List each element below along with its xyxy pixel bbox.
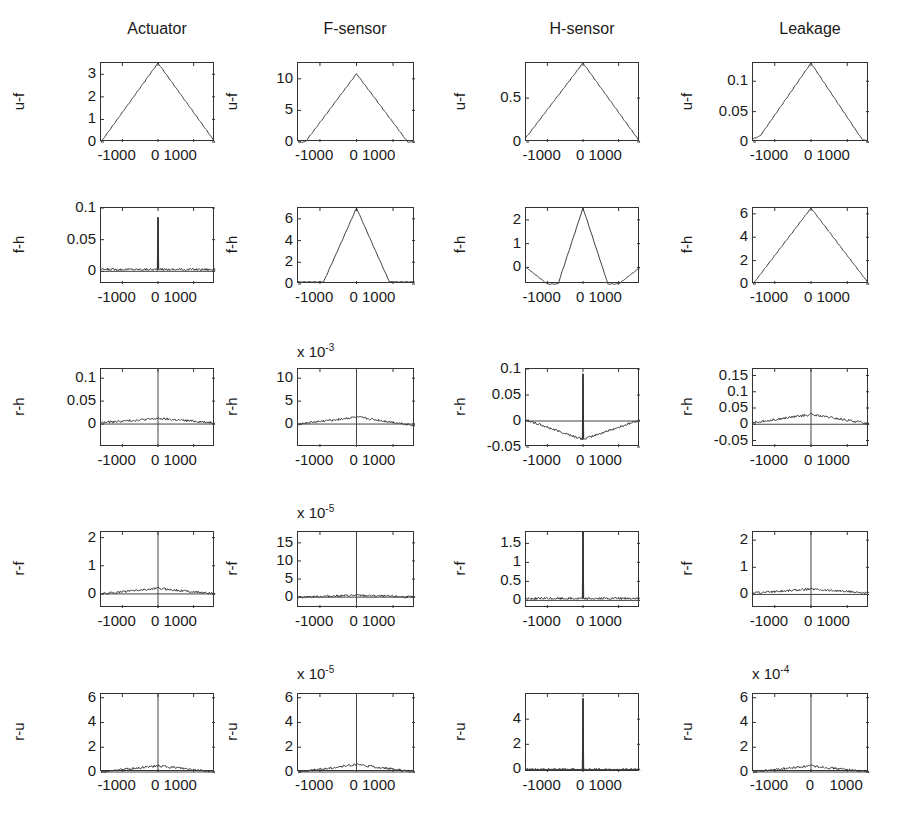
plot-area (752, 62, 868, 141)
multiplier-exponent: -4 (780, 664, 789, 675)
y-tick-label: 0 (233, 133, 293, 148)
plot-area (297, 693, 414, 771)
plot-area (752, 693, 868, 771)
y-tick-label: 0.5 (461, 89, 521, 104)
x-tick-label: -1000 (750, 289, 788, 305)
x-tick-label: 0 1000 (151, 147, 197, 163)
y-tick-label: 15 (233, 534, 293, 549)
y-tick-label: 2 (36, 529, 96, 544)
y-tick-label: 6 (688, 689, 748, 704)
x-tick-label: -1000 (97, 289, 135, 305)
y-tick-label: 6 (233, 210, 293, 225)
plot-area (525, 531, 639, 607)
plot-line (101, 63, 215, 142)
y-axis-label: u-f (10, 81, 27, 121)
multiplier-text: x 10 (297, 343, 325, 360)
x-tick-label: 0 1000 (350, 147, 396, 163)
y-tick-label: 0 (233, 415, 293, 430)
x-tick-label: -1000 (295, 777, 333, 793)
y-tick-label: 0 (36, 585, 96, 600)
y-tick-label: 2 (688, 531, 748, 546)
y-tick-label: 0 (688, 763, 748, 778)
x-tick-label: -1000 (295, 452, 333, 468)
y-tick-label: 0 (461, 133, 521, 148)
y-tick-label: 4 (36, 713, 96, 728)
y-tick-label: 0.1 (36, 369, 96, 384)
x-tick-label: 0 1000 (576, 147, 622, 163)
y-tick-label: 3 (36, 65, 96, 80)
y-tick-label: 0 (233, 763, 293, 778)
plot-area (752, 531, 868, 607)
plot-line (298, 694, 415, 772)
x-tick-label: 0 1000 (576, 452, 622, 468)
x-tick-label: -1000 (97, 147, 135, 163)
plot-line (101, 694, 215, 772)
plot-line (753, 532, 869, 608)
y-tick-label: 2 (461, 735, 521, 750)
x-tick-label: -1000 (97, 452, 135, 468)
x-tick-label: 0 1000 (151, 452, 197, 468)
x-tick-label: 0 1000 (350, 289, 396, 305)
x-tick-label: 0 1000 (804, 147, 850, 163)
x-tick-label: 0 1000 (350, 452, 396, 468)
y-tick-label: 2 (688, 252, 748, 267)
x-tick-label: 0 1000 (576, 613, 622, 629)
plot-area (525, 62, 639, 141)
y-tick-label: 0 (461, 591, 521, 606)
x-tick-label: 0 1000 (576, 289, 622, 305)
y-tick-label: 5 (233, 570, 293, 585)
x-tick-label: 0 (806, 777, 814, 793)
y-axis-label: r-f (10, 549, 27, 589)
x-tick-label: -1000 (522, 452, 560, 468)
plot-area (100, 531, 214, 607)
y-tick-label: 0.05 (461, 386, 521, 401)
y-tick-label: 0 (688, 415, 748, 430)
plot-line (526, 208, 640, 284)
plot-line (101, 369, 215, 447)
x-tick-label: 0 1000 (804, 452, 850, 468)
y-tick-label: 6 (233, 689, 293, 704)
y-tick-label: 1.5 (461, 534, 521, 549)
plot-line (101, 532, 215, 608)
x-tick-label: 0 1000 (576, 777, 622, 793)
x-tick-label: -1000 (295, 289, 333, 305)
x-tick-label: 0 1000 (350, 613, 396, 629)
x-tick-label: -1000 (750, 613, 788, 629)
y-tick-label: 2 (36, 88, 96, 103)
y-tick-label: 10 (233, 70, 293, 85)
plot-area (297, 207, 414, 283)
y-tick-label: 10 (233, 552, 293, 567)
column-title-h-sensor: H-sensor (502, 20, 662, 38)
x-tick-label: -1000 (750, 147, 788, 163)
y-tick-label: 0 (461, 412, 521, 427)
x-tick-label: 1000 (829, 777, 862, 793)
plot-area (525, 207, 639, 283)
plot-area (752, 368, 868, 446)
y-tick-label: 0 (233, 275, 293, 290)
y-tick-label: 0 (688, 585, 748, 600)
y-tick-label: 6 (688, 205, 748, 220)
x-tick-label: 0 1000 (151, 289, 197, 305)
y-axis-label: r-u (10, 712, 27, 752)
plot-area (525, 368, 639, 446)
y-tick-label: -0.05 (688, 432, 748, 447)
y-tick-label: 4 (461, 710, 521, 725)
y-tick-label: 4 (233, 232, 293, 247)
y-tick-label: 4 (233, 713, 293, 728)
y-tick-label: 0.5 (461, 572, 521, 587)
y-tick-label: 0.1 (461, 360, 521, 375)
y-tick-label: 0.15 (688, 367, 748, 382)
y-tick-label: 1 (461, 235, 521, 250)
multiplier-exponent: -5 (325, 664, 334, 675)
y-tick-label: 0 (688, 275, 748, 290)
multiplier-fsensor-rh: x 10-3 (297, 342, 334, 360)
x-tick-label: -1000 (97, 613, 135, 629)
plot-area (100, 207, 214, 283)
plot-line (753, 369, 869, 447)
y-tick-label: 0.1 (688, 383, 748, 398)
y-tick-label: 0.05 (36, 392, 96, 407)
plot-line (753, 694, 869, 772)
y-tick-label: 0.1 (36, 199, 96, 214)
y-tick-label: 5 (233, 392, 293, 407)
y-tick-label: 0 (36, 262, 96, 277)
